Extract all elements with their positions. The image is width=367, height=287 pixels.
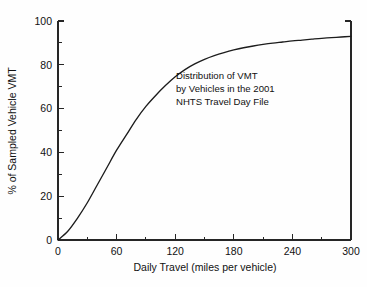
x-tick-label-60: 60 <box>111 245 123 257</box>
y-tick-label-20: 20 <box>40 190 52 202</box>
y-axis-title: % of Sampled Vehicle VMT <box>6 67 18 195</box>
y-tick-labels-group: 020406080100 <box>34 15 52 246</box>
x-tick-label-240: 240 <box>284 245 302 257</box>
x-tick-label-120: 120 <box>166 245 184 257</box>
chart-annotation: Distribution of VMT by Vehicles in the 2… <box>176 70 275 107</box>
x-tick-label-180: 180 <box>225 245 243 257</box>
y-tick-label-80: 80 <box>40 59 52 71</box>
x-tick-label-0: 0 <box>55 245 61 257</box>
y-ticks-group <box>58 21 64 240</box>
x-ticks-group <box>58 234 351 240</box>
y-tick-label-40: 40 <box>40 146 52 158</box>
x-tick-labels-group: 060120180240300 <box>55 245 360 257</box>
x-tick-label-300: 300 <box>342 245 360 257</box>
vmt-distribution-curve <box>58 36 351 240</box>
y-tick-label-100: 100 <box>34 15 52 27</box>
x-axis-title: Daily Travel (miles per vehicle) <box>134 261 277 273</box>
chart-figure: 020406080100 060120180240300 Daily Trave… <box>0 0 367 287</box>
annotation-line-1: Distribution of VMT <box>176 70 258 81</box>
axes-group <box>58 21 351 240</box>
chart-plot-svg: 020406080100 060120180240300 Daily Trave… <box>0 0 367 287</box>
annotation-line-3: NHTS Travel Day File <box>176 96 269 107</box>
y-tick-label-0: 0 <box>46 234 52 246</box>
annotation-line-2: by Vehicles in the 2001 <box>176 83 275 94</box>
y-tick-label-60: 60 <box>40 102 52 114</box>
